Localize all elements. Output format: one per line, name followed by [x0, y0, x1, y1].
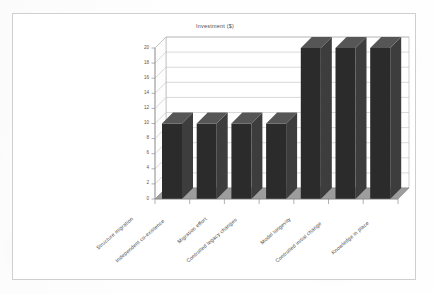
y-tick-label-14: 14 [131, 91, 149, 96]
figure-page: Investment ($) [0, 0, 434, 294]
x-axis-ticks [155, 199, 398, 204]
plot-area: 20 18 16 14 12 10 8 6 4 2 0 Structure mi… [13, 14, 417, 281]
bar-independent-co-existence [197, 113, 228, 200]
y-axis-ticks [152, 48, 156, 199]
y-tick-label-12: 12 [131, 106, 149, 111]
y-tick-label-20: 20 [131, 46, 149, 51]
bar-structure-migration [162, 113, 193, 200]
bar-controlled-initial-change [336, 37, 367, 199]
y-tick-label-2: 2 [131, 181, 149, 186]
y-tick-label-16: 16 [131, 76, 149, 81]
bar-knowledge-in-place [370, 37, 401, 199]
y-tick-label-4: 4 [131, 166, 149, 171]
bar-model-longevity [301, 37, 332, 199]
y-tick-label-8: 8 [131, 136, 149, 141]
bar-chart-svg [13, 14, 417, 281]
bar-controlled-legacy-changes [266, 113, 297, 200]
y-tick-label-18: 18 [131, 61, 149, 66]
y-tick-label-10: 10 [131, 121, 149, 126]
y-tick-label-6: 6 [131, 151, 149, 156]
chart-frame-border: Investment ($) [12, 13, 416, 280]
y-tick-label-0: 0 [131, 197, 149, 202]
bar-migration-effort [231, 113, 262, 200]
